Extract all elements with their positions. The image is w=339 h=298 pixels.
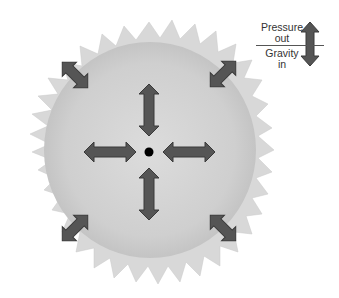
legend-divider: [256, 45, 324, 46]
legend: Pressure out Gravity in: [256, 20, 328, 70]
legend-gravity-label: Gravity in: [256, 48, 308, 70]
center-dot: [145, 148, 154, 157]
legend-gravity-line2: in: [256, 59, 308, 70]
legend-pressure-line2: out: [256, 33, 308, 44]
legend-pressure-label: Pressure out: [256, 22, 308, 44]
